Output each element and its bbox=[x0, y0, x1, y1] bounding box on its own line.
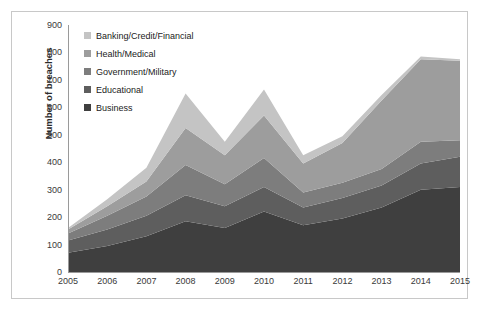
legend-item-label: Health/Medical bbox=[96, 49, 156, 59]
x-axis-tick-2009: 2009 bbox=[205, 275, 245, 287]
legend-swatch-icon bbox=[84, 104, 91, 111]
x-axis-tick-2007: 2007 bbox=[126, 275, 166, 287]
y-axis-tick-300: 300 bbox=[28, 185, 62, 195]
x-axis-tick-2011: 2011 bbox=[283, 275, 323, 287]
legend-item-label: Government/Military bbox=[96, 67, 177, 77]
chart-container: Number of breaches 900800700600500400300… bbox=[0, 0, 480, 311]
x-axis-line bbox=[68, 272, 460, 273]
x-axis-tick-2012: 2012 bbox=[322, 275, 362, 287]
legend-swatch-icon bbox=[84, 68, 91, 75]
y-axis-tick-700: 700 bbox=[28, 75, 62, 85]
legend-item-label: Banking/Credit/Financial bbox=[96, 31, 194, 41]
legend-item[interactable]: Government/Military bbox=[84, 63, 274, 80]
y-axis-tick-900: 900 bbox=[28, 20, 62, 30]
chart-legend: Banking/Credit/FinancialHealth/MedicalGo… bbox=[84, 27, 274, 117]
x-axis-tick-2013: 2013 bbox=[362, 275, 402, 287]
legend-swatch-icon bbox=[84, 86, 91, 93]
x-axis-tick-2005: 2005 bbox=[48, 275, 88, 287]
legend-item-label: Business bbox=[96, 103, 133, 113]
x-axis-tick-2010: 2010 bbox=[244, 275, 284, 287]
legend-item[interactable]: Business bbox=[84, 99, 274, 116]
legend-swatch-icon bbox=[84, 50, 91, 57]
legend-item-label: Educational bbox=[96, 85, 143, 95]
y-axis-tick-500: 500 bbox=[28, 130, 62, 140]
x-axis-tick-2008: 2008 bbox=[166, 275, 206, 287]
legend-item[interactable]: Health/Medical bbox=[84, 45, 274, 62]
y-axis-line bbox=[68, 25, 69, 272]
legend-item[interactable]: Banking/Credit/Financial bbox=[84, 27, 274, 44]
legend-item[interactable]: Educational bbox=[84, 81, 274, 98]
x-axis-tick-2015: 2015 bbox=[440, 275, 480, 287]
y-axis-tick-400: 400 bbox=[28, 157, 62, 167]
y-axis-tick-600: 600 bbox=[28, 102, 62, 112]
y-axis-tick-labels: 9008007006005004003002001000 bbox=[26, 25, 62, 272]
x-axis-tick-labels: 2005200620072008200920102011201220132014… bbox=[68, 275, 460, 291]
y-axis-tick-100: 100 bbox=[28, 240, 62, 250]
x-axis-tick-2006: 2006 bbox=[87, 275, 127, 287]
legend-swatch-icon bbox=[84, 32, 91, 39]
y-axis-tick-200: 200 bbox=[28, 212, 62, 222]
x-axis-tick-2014: 2014 bbox=[401, 275, 441, 287]
y-axis-tick-800: 800 bbox=[28, 47, 62, 57]
